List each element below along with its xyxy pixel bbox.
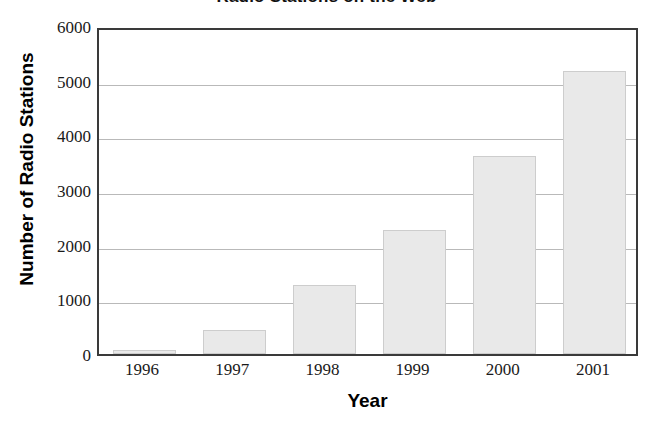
- bar-chart: Radio Stations on the Web Number of Radi…: [0, 0, 653, 430]
- y-axis-tick-label: 1000: [11, 291, 91, 311]
- x-axis-tick-label: 1997: [187, 360, 277, 380]
- x-axis-tick-label: 2001: [548, 360, 638, 380]
- gridline: [99, 249, 636, 250]
- gridline: [99, 139, 636, 140]
- plot-area: [97, 28, 638, 356]
- gridline: [99, 85, 636, 86]
- x-axis-tick-label: 2000: [458, 360, 548, 380]
- x-axis-title: Year: [97, 390, 638, 412]
- y-axis-tick-label: 0: [11, 346, 91, 366]
- bar: [293, 285, 356, 354]
- bar: [383, 230, 446, 354]
- y-axis-tick-label: 4000: [11, 127, 91, 147]
- y-axis-tick-labels: 0100020003000400050006000: [5, 28, 91, 356]
- gridline: [99, 303, 636, 304]
- x-axis-tick-label: 1999: [368, 360, 458, 380]
- bar: [473, 156, 536, 354]
- gridline: [99, 194, 636, 195]
- x-axis-tick-label: 1996: [97, 360, 187, 380]
- x-axis-tick-label: 1998: [277, 360, 367, 380]
- y-axis-tick-label: 5000: [11, 73, 91, 93]
- bar: [113, 350, 176, 354]
- bar: [563, 71, 626, 354]
- y-axis-tick-label: 3000: [11, 182, 91, 202]
- y-axis-tick-label: 6000: [11, 18, 91, 38]
- bar: [203, 330, 266, 354]
- chart-title: Radio Stations on the Web: [0, 0, 653, 7]
- y-axis-tick-label: 2000: [11, 237, 91, 257]
- x-axis-tick-labels: 199619971998199920002001: [97, 360, 638, 386]
